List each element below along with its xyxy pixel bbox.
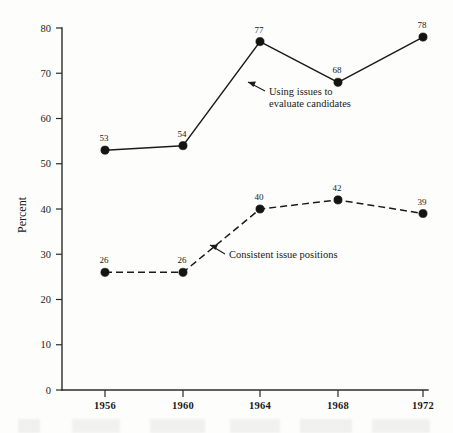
y-tick-label-10: 10 xyxy=(41,339,52,350)
annotation-upper-line2: evaluate candidates xyxy=(269,98,351,109)
data-point-marker xyxy=(179,142,187,150)
series-line-0 xyxy=(105,37,423,150)
y-axis-ticks: 01020304050607080 xyxy=(41,23,63,396)
data-point-marker xyxy=(101,268,109,276)
y-tick-label-60: 60 xyxy=(41,113,52,124)
y-tick-label-30: 30 xyxy=(41,249,52,260)
data-point-marker xyxy=(419,209,427,217)
data-point-value-label: 26 xyxy=(178,255,188,265)
data-point-value-label: 39 xyxy=(418,197,428,207)
y-tick-label-0: 0 xyxy=(46,385,51,396)
line-chart-canvas: 01020304050607080 19561960196419681972 P… xyxy=(0,0,453,433)
data-point-marker xyxy=(419,33,427,41)
data-point-value-label: 54 xyxy=(178,129,188,139)
chart-figure: 01020304050607080 19561960196419681972 P… xyxy=(0,0,453,433)
y-tick-label-70: 70 xyxy=(41,68,52,79)
data-point-value-label: 53 xyxy=(100,133,110,143)
x-tick-label-1956: 1956 xyxy=(94,400,116,411)
x-tick-label-1972: 1972 xyxy=(412,400,434,411)
data-point-marker xyxy=(334,196,342,204)
data-point-value-label: 78 xyxy=(418,20,428,30)
y-tick-label-40: 40 xyxy=(41,204,52,215)
data-point-marker xyxy=(256,37,264,45)
annotation-consistent-issue: Consistent issue positions xyxy=(210,245,338,261)
data-point-value-label: 77 xyxy=(255,25,265,35)
x-tick-label-1968: 1968 xyxy=(327,400,349,411)
x-tick-label-1964: 1964 xyxy=(249,400,272,411)
annotation-lower-line1: Consistent issue positions xyxy=(229,249,338,260)
point-value-labels: 53547768782626404239 xyxy=(100,20,428,265)
data-point-marker xyxy=(256,205,264,213)
data-point-value-label: 68 xyxy=(333,65,343,75)
y-axis-title: Percent xyxy=(15,196,29,233)
annotation-upper-line1: Using issues to xyxy=(269,86,333,97)
x-axis-ticks: 19561960196419681972 xyxy=(94,390,434,411)
data-point-value-label: 40 xyxy=(255,192,265,202)
y-tick-label-50: 50 xyxy=(41,158,52,169)
data-point-value-label: 26 xyxy=(100,255,110,265)
y-tick-label-20: 20 xyxy=(41,294,52,305)
data-point-marker xyxy=(334,78,342,86)
data-point-marker xyxy=(101,146,109,154)
x-tick-label-1960: 1960 xyxy=(172,400,194,411)
data-point-value-label: 42 xyxy=(333,183,342,193)
data-point-marker xyxy=(179,268,187,276)
series-layer xyxy=(101,33,427,277)
y-tick-label-80: 80 xyxy=(41,23,52,34)
